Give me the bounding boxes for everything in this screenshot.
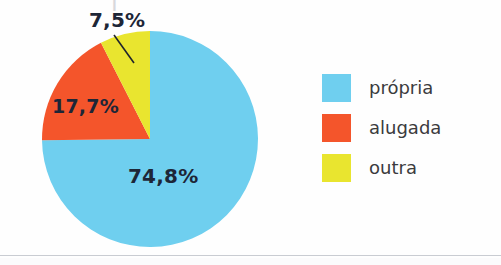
slice-label-outra: 7,5%	[89, 8, 145, 32]
chart-legend: própria alugada outra	[322, 74, 441, 182]
legend-item-alugada[interactable]: alugada	[322, 114, 441, 142]
pie-chart-area	[41, 30, 259, 248]
legend-item-propria[interactable]: própria	[322, 74, 441, 102]
legend-label-propria: própria	[369, 79, 433, 97]
pie-svg	[41, 30, 259, 248]
pie-chart-figure: | 74,8% 17,7% 7,5% própria alugada outra	[0, 0, 501, 265]
figure-footer-band	[0, 258, 501, 265]
legend-swatch-propria	[322, 74, 351, 102]
slice-label-alugada: 17,7%	[52, 95, 119, 117]
legend-label-alugada: alugada	[369, 119, 441, 137]
figure-bottom-divider	[0, 255, 501, 256]
legend-label-outra: outra	[369, 159, 417, 177]
legend-swatch-outra	[322, 154, 351, 182]
legend-item-outra[interactable]: outra	[322, 154, 441, 182]
legend-swatch-alugada	[322, 114, 351, 142]
slice-label-propria: 74,8%	[128, 164, 198, 188]
